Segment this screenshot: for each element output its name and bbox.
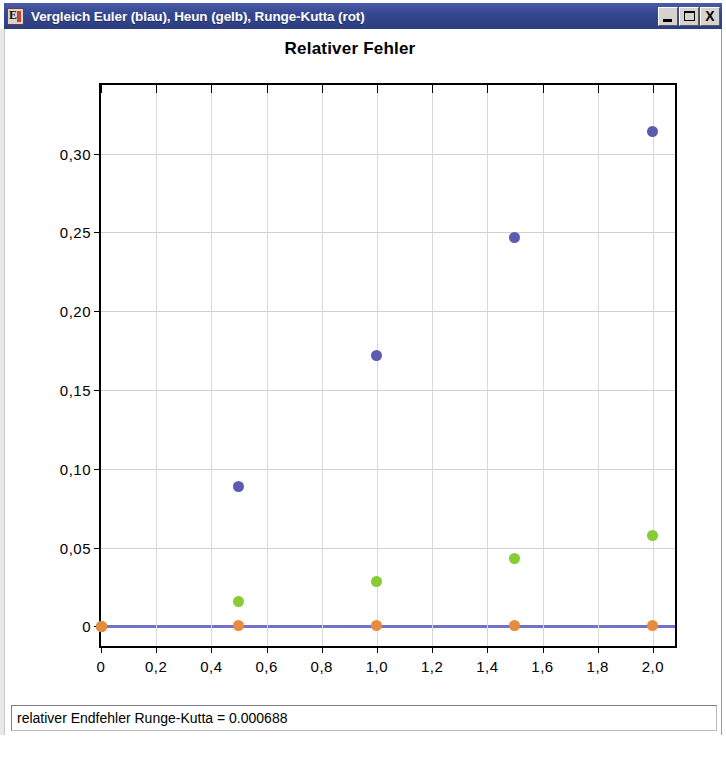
y-axis-label: 0,25	[60, 224, 91, 241]
data-point-heun	[233, 596, 244, 607]
data-point-runge-kutta	[509, 620, 520, 631]
x-axis-tick	[267, 646, 268, 653]
gridline-horizontal	[101, 390, 675, 391]
application-window: Vergleich Euler (blau), Heun (gelb), Run…	[0, 0, 726, 769]
y-axis-tick	[94, 311, 101, 312]
gridline-horizontal	[101, 232, 675, 233]
gridline-vertical	[432, 85, 433, 646]
x-axis-label: 0,2	[145, 658, 167, 675]
status-text: relativer Endfehler Runge-Kutta = 0.0006…	[17, 710, 287, 726]
x-axis-tick	[653, 646, 654, 653]
data-point-heun	[371, 576, 382, 587]
x-axis-label: 0,6	[255, 658, 277, 675]
y-axis-tick	[94, 469, 101, 470]
x-axis-tick	[101, 646, 102, 653]
data-point-runge-kutta	[96, 621, 107, 632]
y-axis-label: 0,20	[60, 303, 91, 320]
data-point-runge-kutta	[233, 620, 244, 631]
chart-canvas: Relativer Fehler 00,050,100,150,200,250,…	[5, 29, 721, 701]
gridline-vertical	[322, 85, 323, 646]
x-axis-label: 1,0	[366, 658, 388, 675]
close-button[interactable]: X	[700, 7, 720, 26]
gridline-horizontal	[101, 548, 675, 549]
y-axis-tick	[94, 154, 101, 155]
y-axis-tick	[94, 390, 101, 391]
gridline-vertical	[211, 85, 212, 646]
data-point-euler	[371, 350, 382, 361]
data-point-euler	[647, 126, 658, 137]
x-axis-label: 0,8	[311, 658, 333, 675]
x-axis-tick-top	[101, 85, 102, 93]
title-bar[interactable]: Vergleich Euler (blau), Heun (gelb), Run…	[4, 3, 722, 29]
x-axis-tick	[543, 646, 544, 653]
x-axis-label: 1,8	[587, 658, 609, 675]
gridline-vertical	[653, 85, 654, 646]
maximize-button[interactable]	[679, 7, 699, 26]
x-axis-label: 0	[97, 658, 106, 675]
y-axis-label: 0,30	[60, 145, 91, 162]
x-axis-tick-top	[322, 85, 323, 93]
close-icon: X	[701, 8, 719, 25]
gridline-vertical	[377, 85, 378, 646]
data-point-euler	[509, 232, 520, 243]
y-axis-label: 0	[82, 618, 91, 635]
x-axis-tick-top	[487, 85, 488, 93]
x-axis-tick-top	[598, 85, 599, 93]
zero-baseline	[101, 625, 675, 628]
java-app-icon	[7, 8, 24, 25]
data-point-euler	[233, 481, 244, 492]
window-title: Vergleich Euler (blau), Heun (gelb), Run…	[31, 9, 657, 24]
gridline-vertical	[598, 85, 599, 646]
gridline-vertical	[267, 85, 268, 646]
data-point-runge-kutta	[647, 620, 658, 631]
status-bar: relativer Endfehler Runge-Kutta = 0.0006…	[11, 705, 717, 731]
x-axis-label: 1,2	[421, 658, 443, 675]
x-axis-tick	[211, 646, 212, 653]
data-point-heun	[509, 553, 520, 564]
maximize-icon	[684, 11, 695, 21]
window-bottom-border	[0, 737, 726, 769]
gridline-horizontal	[101, 311, 675, 312]
y-axis-tick	[94, 232, 101, 233]
x-axis-tick	[598, 646, 599, 653]
x-axis-label: 1,6	[531, 658, 553, 675]
minimize-icon	[663, 19, 672, 22]
y-axis-tick	[94, 548, 101, 549]
x-axis-label: 1,4	[476, 658, 498, 675]
x-axis-tick-top	[432, 85, 433, 93]
chart-title: Relativer Fehler	[5, 39, 695, 59]
gridline-horizontal	[101, 469, 675, 470]
y-axis-label: 0,10	[60, 460, 91, 477]
x-axis-tick	[322, 646, 323, 653]
plot-area: 00,050,100,150,200,250,3000,20,40,60,81,…	[99, 83, 677, 648]
gridline-horizontal	[101, 154, 675, 155]
y-axis-label: 0,05	[60, 539, 91, 556]
window-content: Relativer Fehler 00,050,100,150,200,250,…	[4, 29, 722, 735]
x-axis-label: 2,0	[642, 658, 664, 675]
x-axis-tick-top	[267, 85, 268, 93]
x-axis-tick-top	[211, 85, 212, 93]
y-axis-label: 0,15	[60, 381, 91, 398]
x-axis-tick-top	[156, 85, 157, 93]
x-axis-label: 0,4	[200, 658, 222, 675]
gridline-vertical	[487, 85, 488, 646]
x-axis-tick-top	[653, 85, 654, 93]
x-axis-tick	[377, 646, 378, 653]
x-axis-tick-top	[377, 85, 378, 93]
gridline-vertical	[543, 85, 544, 646]
x-axis-tick	[487, 646, 488, 653]
data-point-heun	[647, 530, 658, 541]
data-point-runge-kutta	[371, 620, 382, 631]
x-axis-tick-top	[543, 85, 544, 93]
x-axis-tick	[432, 646, 433, 653]
minimize-button[interactable]	[658, 7, 678, 26]
x-axis-tick	[156, 646, 157, 653]
gridline-vertical	[156, 85, 157, 646]
